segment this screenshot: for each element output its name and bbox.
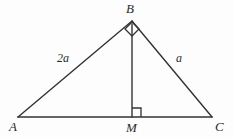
side-label-ab: 2a	[57, 52, 69, 64]
vertex-label-b: B	[126, 2, 134, 15]
right-angle-marker-m-icon	[132, 108, 141, 117]
vertex-label-a: A	[9, 120, 17, 133]
geometry-canvas	[0, 0, 234, 137]
segment-bc	[132, 21, 212, 117]
geometry-figure: A B C M 2a a	[0, 0, 234, 137]
side-label-bc: a	[176, 52, 182, 64]
segment-ab	[18, 21, 132, 117]
vertex-label-m: M	[126, 121, 137, 134]
vertex-label-c: C	[215, 120, 224, 133]
